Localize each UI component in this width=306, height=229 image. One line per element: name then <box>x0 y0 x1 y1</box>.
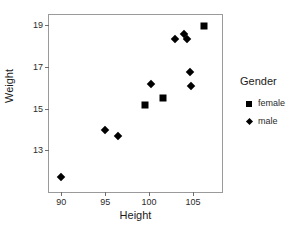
x-tick-label: 95 <box>100 198 110 207</box>
legend-title: Gender <box>240 76 306 87</box>
data-point-male <box>57 173 65 181</box>
y-tick-mark <box>45 67 49 68</box>
legend: Gender femalemale <box>240 76 306 132</box>
legend-item-female[interactable]: female <box>240 96 306 111</box>
data-point-male <box>170 35 178 43</box>
scatter-plot-figure: 13151719 9095100105 Weight Height Gender… <box>0 0 306 229</box>
data-point-female <box>141 101 148 108</box>
x-tick-mark <box>61 192 62 196</box>
x-tick-label: 90 <box>56 198 66 207</box>
x-tick-mark <box>193 192 194 196</box>
x-tick-label: 100 <box>142 198 157 207</box>
x-axis-title: Height <box>48 210 223 221</box>
plot-area <box>49 15 222 192</box>
y-tick-mark <box>45 150 49 151</box>
x-tick-mark <box>149 192 150 196</box>
y-tick-mark <box>45 109 49 110</box>
legend-item-label: female <box>258 99 285 108</box>
y-tick-label: 13 <box>33 146 43 155</box>
plot-frame: 13151719 9095100105 <box>48 14 223 193</box>
data-point-male <box>187 82 195 90</box>
data-point-male <box>147 79 155 87</box>
data-point-female <box>160 95 167 102</box>
data-point-male <box>183 35 191 43</box>
y-axis-title: Weight <box>4 69 15 103</box>
data-point-male <box>186 68 194 76</box>
square-marker-icon <box>240 101 258 107</box>
data-point-female <box>201 23 208 30</box>
x-tick-mark <box>105 192 106 196</box>
y-tick-label: 17 <box>33 63 43 72</box>
legend-item-label: male <box>258 117 278 126</box>
y-tick-label: 19 <box>33 21 43 30</box>
data-point-male <box>101 125 109 133</box>
legend-item-male[interactable]: male <box>240 114 306 129</box>
legend-entries: femalemale <box>240 96 306 129</box>
x-tick-label: 105 <box>186 198 201 207</box>
diamond-marker-icon <box>240 119 258 124</box>
y-tick-mark <box>45 25 49 26</box>
y-tick-label: 15 <box>33 104 43 113</box>
data-point-male <box>113 132 121 140</box>
